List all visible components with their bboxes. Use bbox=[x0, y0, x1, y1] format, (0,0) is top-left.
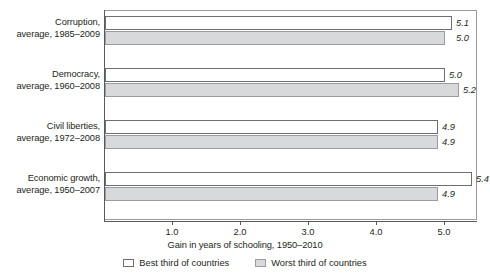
legend-label-best-third: Best third of countries bbox=[139, 258, 229, 268]
category-label-line1: Civil liberties, bbox=[47, 121, 100, 131]
x-axis-tick-label: 1.0 bbox=[166, 227, 179, 237]
bar-corruption-best bbox=[105, 16, 452, 30]
bar-economic-growth-worst bbox=[105, 187, 438, 201]
category-label-civil-liberties: Civil liberties, average, 1972–2008 bbox=[0, 121, 104, 144]
legend-item-best-third: Best third of countries bbox=[123, 258, 229, 268]
bar-value-civil-liberties-best: 4.9 bbox=[442, 120, 455, 134]
bar-value-economic-growth-worst: 4.9 bbox=[442, 187, 455, 201]
bar-value-democracy-best: 5.0 bbox=[449, 68, 462, 82]
legend-item-worst-third: Worst third of countries bbox=[255, 258, 366, 268]
chart-legend: Best third of countries Worst third of c… bbox=[0, 258, 490, 268]
category-label-line2: average, 1950–2007 bbox=[0, 185, 100, 197]
category-label-line1: Democracy, bbox=[52, 69, 100, 79]
category-label-line1: Corruption, bbox=[55, 17, 100, 27]
chart-figure: Corruption, average, 1985–2009 Democracy… bbox=[0, 0, 490, 277]
x-axis-tick bbox=[172, 221, 173, 225]
bar-value-corruption-best: 5.1 bbox=[456, 16, 469, 30]
x-axis-tick bbox=[444, 221, 445, 225]
x-axis-tick-label: 3.0 bbox=[302, 227, 315, 237]
bar-democracy-worst bbox=[105, 83, 459, 97]
legend-swatch-icon-best bbox=[123, 259, 134, 267]
category-label-line2: average, 1972–2008 bbox=[0, 133, 100, 145]
legend-label-worst-third: Worst third of countries bbox=[271, 258, 366, 268]
bar-democracy-best bbox=[105, 68, 445, 82]
x-axis-tick-label: 5.0 bbox=[438, 227, 451, 237]
bar-corruption-worst bbox=[105, 31, 445, 45]
category-label-line2: average, 1960–2008 bbox=[0, 81, 100, 93]
bar-value-democracy-worst: 5.2 bbox=[463, 83, 476, 97]
x-axis-tick bbox=[240, 221, 241, 225]
x-axis-tick bbox=[308, 221, 309, 225]
x-axis-title: Gain in years of schooling, 1950–2010 bbox=[0, 240, 490, 250]
x-axis-tick-label: 4.0 bbox=[370, 227, 383, 237]
category-label-line1: Economic growth, bbox=[28, 173, 100, 183]
legend-swatch-icon-worst bbox=[255, 259, 266, 267]
bar-value-civil-liberties-worst: 4.9 bbox=[442, 135, 455, 149]
category-label-line2: average, 1985–2009 bbox=[0, 29, 100, 41]
category-label-democracy: Democracy, average, 1960–2008 bbox=[0, 69, 104, 92]
bar-value-corruption-worst: 5.0 bbox=[456, 31, 469, 45]
bar-civil-liberties-worst bbox=[105, 135, 438, 149]
category-label-economic-growth: Economic growth, average, 1950–2007 bbox=[0, 173, 104, 196]
category-label-corruption: Corruption, average, 1985–2009 bbox=[0, 17, 104, 40]
bar-civil-liberties-best bbox=[105, 120, 438, 134]
x-axis-line bbox=[104, 221, 477, 222]
bar-economic-growth-best bbox=[105, 172, 472, 186]
x-axis-tick-label: 2.0 bbox=[234, 227, 247, 237]
bar-value-economic-growth-best: 5.4 bbox=[476, 172, 489, 186]
x-axis-tick bbox=[376, 221, 377, 225]
